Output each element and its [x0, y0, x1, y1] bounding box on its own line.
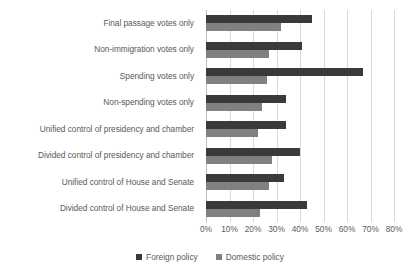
- category-label: Final passage votes only: [0, 10, 200, 37]
- category-label: Non-spending votes only: [0, 90, 200, 117]
- bar-foreign-policy: [206, 121, 286, 129]
- category-label: Divided control of House and Senate: [0, 196, 200, 223]
- bar-domestic-policy: [206, 209, 260, 217]
- x-axis-tick-label: 60%: [339, 224, 356, 234]
- bar-group: [206, 143, 394, 170]
- bar-series-container: [206, 10, 394, 222]
- bar-foreign-policy: [206, 15, 312, 23]
- bar-group: [206, 90, 394, 117]
- legend-item-foreign-policy[interactable]: Foreign policy: [136, 252, 198, 262]
- bar-foreign-policy: [206, 68, 363, 76]
- chart-legend: Foreign policyDomestic policy: [0, 252, 420, 262]
- bar-domestic-policy: [206, 103, 262, 111]
- category-label: Non-immigration votes only: [0, 37, 200, 64]
- x-axis-tick-label: 50%: [315, 224, 332, 234]
- bar-domestic-policy: [206, 50, 269, 58]
- bar-foreign-policy: [206, 148, 300, 156]
- x-axis-tick-label: 10%: [221, 224, 238, 234]
- x-axis: 0%10%20%30%40%50%60%70%80%: [206, 224, 394, 240]
- plot-area: [206, 10, 394, 222]
- x-axis-tick-label: 80%: [386, 224, 403, 234]
- legend-label: Domestic policy: [226, 252, 284, 262]
- bar-foreign-policy: [206, 174, 284, 182]
- gridline: [394, 10, 395, 222]
- legend-swatch-icon: [136, 254, 142, 260]
- bar-group: [206, 10, 394, 37]
- x-axis-tick-label: 20%: [245, 224, 262, 234]
- bar-group: [206, 116, 394, 143]
- bar-group: [206, 37, 394, 64]
- x-axis-tick-label: 40%: [292, 224, 309, 234]
- bar-domestic-policy: [206, 156, 272, 164]
- category-axis: Final passage votes onlyNon-immigration …: [0, 10, 200, 222]
- bar-foreign-policy: [206, 201, 307, 209]
- bar-domestic-policy: [206, 23, 281, 31]
- bar-domestic-policy: [206, 182, 269, 190]
- bar-chart: Final passage votes onlyNon-immigration …: [0, 0, 420, 276]
- category-label: Unified control of House and Senate: [0, 169, 200, 196]
- x-axis-tick-label: 0%: [200, 224, 212, 234]
- category-label: Unified control of presidency and chambe…: [0, 116, 200, 143]
- bar-foreign-policy: [206, 95, 286, 103]
- plot-wrapper: Final passage votes onlyNon-immigration …: [0, 0, 420, 232]
- category-label: Spending votes only: [0, 63, 200, 90]
- bar-foreign-policy: [206, 42, 302, 50]
- bar-group: [206, 63, 394, 90]
- bar-group: [206, 169, 394, 196]
- x-axis-tick-label: 70%: [362, 224, 379, 234]
- bar-group: [206, 196, 394, 223]
- legend-item-domestic-policy[interactable]: Domestic policy: [216, 252, 284, 262]
- legend-label: Foreign policy: [146, 252, 198, 262]
- category-label: Divided control of presidency and chambe…: [0, 143, 200, 170]
- legend-swatch-icon: [216, 254, 222, 260]
- bar-domestic-policy: [206, 129, 258, 137]
- x-axis-tick-label: 30%: [268, 224, 285, 234]
- bar-domestic-policy: [206, 76, 267, 84]
